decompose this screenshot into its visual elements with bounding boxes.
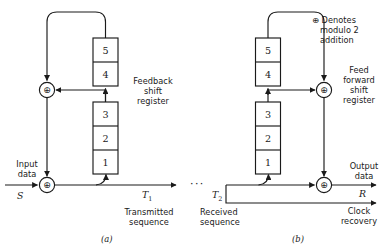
a-stage-1: 1 xyxy=(93,157,118,168)
a-stage-5: 5 xyxy=(93,45,118,56)
figure-canvas: 5 4 3 2 1 ⊕ ⊕ Feedback shift register In… xyxy=(0,0,392,252)
legend-line3: addition xyxy=(320,36,354,46)
a-output-label-line2: sequence xyxy=(112,218,186,228)
a-register-label-line3: register xyxy=(125,97,181,107)
b-register-label-line4: register xyxy=(333,96,385,106)
a-feed-into-register xyxy=(96,175,106,186)
a-input-symbol: S xyxy=(17,190,23,201)
a-stage-4: 4 xyxy=(93,69,118,80)
b-input-symbol-subscript: 2 xyxy=(218,195,222,203)
b-clock-label-line2: recovery xyxy=(333,217,385,227)
b-output-label-line2: data xyxy=(340,172,388,182)
b-stage-3: 3 xyxy=(256,109,281,120)
b-input-label-line2: sequence xyxy=(200,218,240,228)
b-feed-into-register xyxy=(259,175,269,186)
b-adder-top-symbol: ⊕ xyxy=(317,86,331,96)
b-stage-4: 4 xyxy=(256,69,281,80)
a-adder-top-symbol: ⊕ xyxy=(40,86,54,96)
a-stage-2: 2 xyxy=(93,133,118,144)
a-stage-3: 3 xyxy=(93,109,118,120)
b-stage-2: 2 xyxy=(256,133,281,144)
a-adder-bottom-symbol: ⊕ xyxy=(40,181,54,191)
b-stage-1: 1 xyxy=(256,157,281,168)
a-input-label-line2: data xyxy=(6,170,48,180)
a-tap-to-adder xyxy=(56,89,106,103)
a-output-symbol: T1 xyxy=(142,189,152,203)
b-input-symbol: T2 xyxy=(212,189,222,203)
b-adder-bottom-symbol: ⊕ xyxy=(317,181,331,191)
caption-a: (a) xyxy=(101,234,113,244)
b-output-symbol: R xyxy=(359,188,366,199)
b-tap-to-adder xyxy=(268,89,315,103)
caption-b: (b) xyxy=(292,234,304,244)
ellipsis-between-panels: ··· xyxy=(190,177,205,190)
a-output-symbol-subscript: 1 xyxy=(148,195,152,203)
b-stage-5: 5 xyxy=(256,45,281,56)
b-clock-recovery-line xyxy=(226,185,376,203)
